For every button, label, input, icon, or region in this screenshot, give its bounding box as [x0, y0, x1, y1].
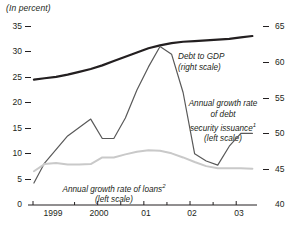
plot-area: [0, 0, 290, 231]
series-line-debt-security-issuance: [34, 46, 252, 183]
chart-figure: (In percent) 35 30 25 20 15 10 5 0 65 60…: [0, 0, 290, 231]
series-line-debt-to-gdp: [34, 36, 252, 80]
series-line-loans: [34, 150, 252, 171]
